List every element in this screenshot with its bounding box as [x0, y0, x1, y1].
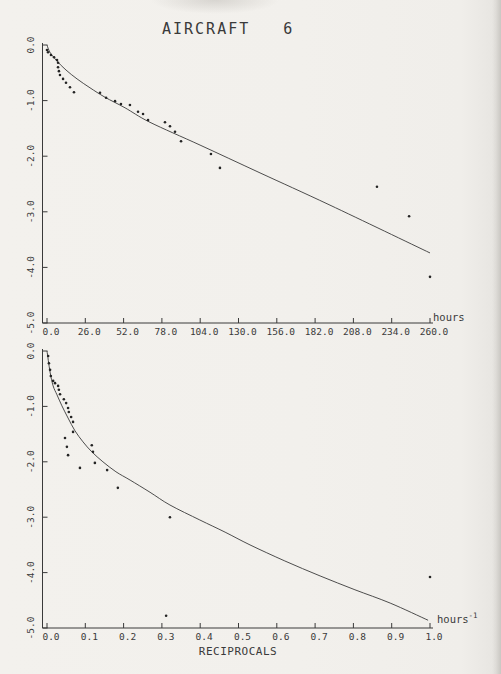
scanned-plot-page: AIRCRAFT 6 0.026.052.078.0104.0130.0156.…: [0, 0, 501, 674]
y-tick-label: -4.0: [25, 256, 36, 279]
data-point: [54, 382, 57, 385]
data-point: [72, 421, 75, 424]
data-point: [429, 276, 432, 279]
x-tick-label: 26.0: [78, 326, 101, 337]
data-point: [129, 104, 132, 107]
y-tick-label: -5.0: [25, 311, 36, 334]
data-point: [408, 215, 411, 218]
data-point: [64, 437, 67, 440]
data-point: [50, 375, 53, 378]
x-tick-label: 0.5: [234, 631, 251, 642]
data-point: [219, 167, 222, 170]
data-point: [58, 388, 61, 391]
data-point: [59, 393, 62, 396]
y-tick-label: -1.0: [25, 89, 36, 112]
data-point: [57, 61, 60, 64]
data-point: [117, 487, 120, 490]
hours-chart: 0.026.052.078.0104.0130.0156.0182.0208.0…: [25, 36, 465, 337]
data-point: [142, 113, 145, 116]
data-point: [65, 82, 68, 85]
fit-curve: [47, 45, 430, 253]
data-point: [120, 103, 123, 106]
data-point: [62, 78, 65, 81]
data-point: [67, 454, 70, 457]
data-point: [56, 59, 59, 62]
x-tick-label: 0.0: [42, 631, 59, 642]
data-point: [429, 576, 432, 579]
x-unit-label: hours: [433, 311, 465, 323]
y-tick-label: -2.0: [25, 450, 36, 473]
x-tick-label: 0.3: [157, 631, 174, 642]
x-tick-label: 0.0: [42, 326, 59, 337]
data-point: [57, 66, 60, 69]
data-point: [169, 125, 172, 128]
data-point: [169, 516, 172, 519]
y-tick-label: -2.0: [25, 144, 36, 167]
x-tick-label: 1.0: [425, 631, 442, 642]
x-tick-label: 0.7: [311, 631, 328, 642]
reciprocals-chart: 0.00.10.20.30.40.50.60.70.80.91.00.0-1.0…: [25, 342, 478, 658]
x-tick-label: 0.2: [119, 631, 136, 642]
data-point: [105, 97, 108, 100]
x-tick-label: 0.4: [196, 631, 213, 642]
data-point: [50, 54, 53, 57]
data-point: [94, 462, 97, 465]
data-point: [73, 91, 76, 94]
y-tick-label: -5.0: [25, 616, 36, 639]
data-point: [65, 402, 68, 405]
data-point: [137, 110, 140, 113]
x-tick-label: 156.0: [266, 326, 295, 337]
x-tick-label: 0.1: [81, 631, 98, 642]
y-tick-label: -4.0: [25, 561, 36, 584]
x-axis-title: RECIPROCALS: [199, 645, 277, 658]
x-tick-label: 208.0: [343, 326, 372, 337]
x-tick-label: 260.0: [420, 326, 449, 337]
y-tick-label: -3.0: [25, 505, 36, 528]
data-point: [57, 385, 60, 388]
y-tick-label: -3.0: [25, 200, 36, 223]
data-point: [46, 49, 49, 52]
plots-canvas: 0.026.052.078.0104.0130.0156.0182.0208.0…: [0, 0, 501, 674]
data-point: [47, 355, 50, 358]
data-point: [49, 369, 52, 372]
data-point: [52, 380, 55, 383]
data-point: [58, 70, 61, 73]
x-tick-label: 52.0: [116, 326, 139, 337]
data-point: [79, 467, 82, 470]
data-point: [210, 153, 213, 156]
data-point: [69, 86, 72, 89]
x-unit-label: hours-1: [437, 611, 478, 625]
data-point: [180, 140, 183, 143]
data-point: [165, 615, 168, 618]
x-tick-label: 0.9: [387, 631, 404, 642]
data-point: [66, 446, 69, 449]
data-point: [174, 130, 177, 133]
data-point: [376, 185, 379, 188]
fit-curve: [47, 351, 428, 620]
data-point: [53, 56, 56, 59]
x-tick-label: 78.0: [154, 326, 177, 337]
x-tick-label: 130.0: [228, 326, 257, 337]
data-point: [164, 121, 167, 124]
data-point: [72, 431, 75, 434]
data-point: [63, 398, 66, 401]
data-point: [147, 119, 150, 122]
data-point: [99, 92, 102, 95]
data-point: [114, 100, 117, 103]
data-point: [67, 407, 70, 410]
data-point: [70, 416, 73, 419]
x-tick-label: 104.0: [190, 326, 219, 337]
data-point: [47, 51, 50, 54]
y-tick-label: 0.0: [25, 36, 36, 53]
data-point: [106, 469, 109, 472]
x-tick-label: 182.0: [305, 326, 334, 337]
x-tick-label: 0.6: [272, 631, 289, 642]
x-tick-label: 0.8: [349, 631, 366, 642]
y-tick-label: 0.0: [25, 342, 36, 359]
data-point: [48, 362, 51, 365]
data-point: [68, 411, 71, 414]
data-point: [92, 451, 95, 454]
y-tick-label: -1.0: [25, 395, 36, 418]
data-point: [91, 444, 94, 447]
x-tick-label: 234.0: [381, 326, 410, 337]
